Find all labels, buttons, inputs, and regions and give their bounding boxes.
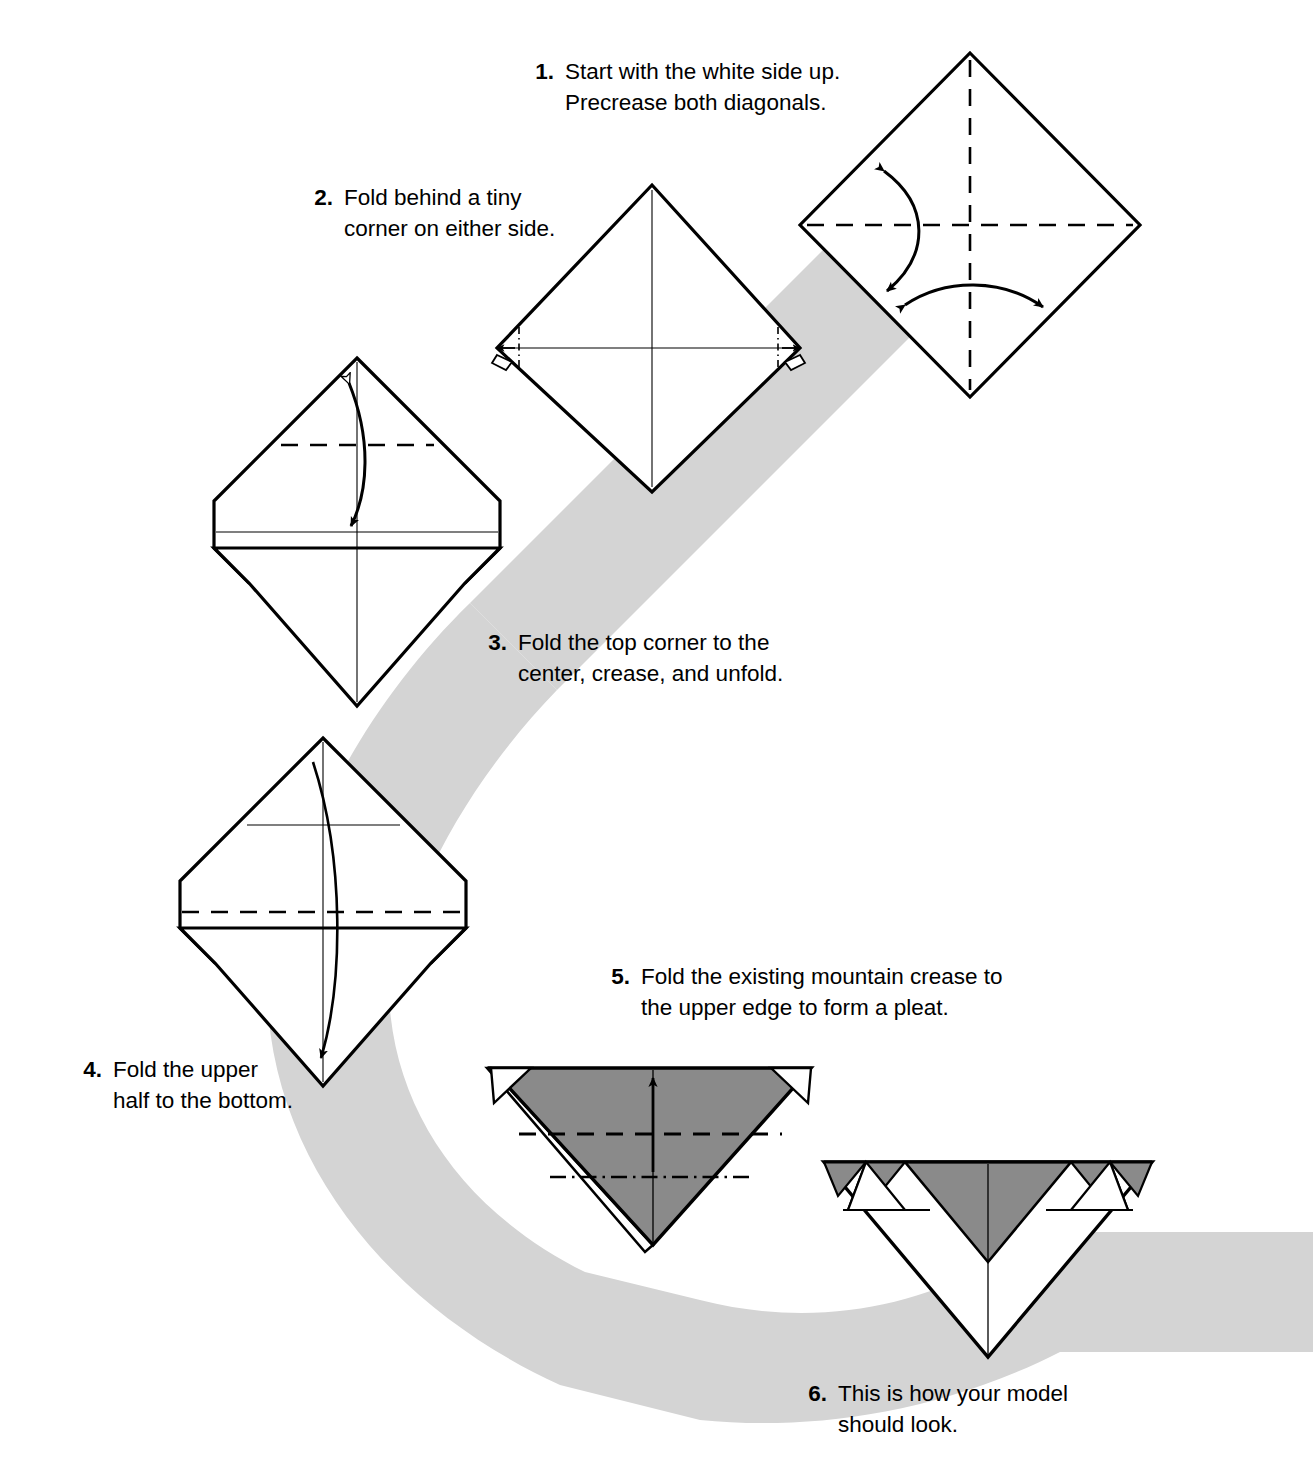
- step-text-6-line1: This is how your model: [838, 1381, 1068, 1406]
- step-text-1-line1: Start with the white side up.: [565, 59, 840, 84]
- origami-diagram-canvas: [0, 0, 1313, 1472]
- figure-step-5: [487, 1068, 811, 1252]
- step-text-3-line2: center, crease, and unfold.: [518, 658, 783, 689]
- origami-diagram-page: 1.Start with the white side up. Precreas…: [0, 0, 1313, 1472]
- step-number-3: 3.: [477, 627, 507, 658]
- flow-ribbon: [268, 200, 1313, 1423]
- step-text-1-line2: Precrease both diagonals.: [565, 87, 840, 118]
- step-text-4-line2: half to the bottom.: [113, 1085, 293, 1116]
- step-caption-2: 2.Fold behind a tiny corner on either si…: [303, 182, 555, 244]
- step-text-4-line1: Fold the upper: [113, 1057, 258, 1082]
- step-caption-5: 5.Fold the existing mountain crease to t…: [600, 961, 1002, 1023]
- step-number-4: 4.: [72, 1054, 102, 1085]
- step-number-6: 6.: [797, 1378, 827, 1409]
- step-caption-6: 6.This is how your model should look.: [797, 1378, 1068, 1440]
- step-number-2: 2.: [303, 182, 333, 213]
- step-caption-1: 1.Start with the white side up. Precreas…: [524, 56, 840, 118]
- step-number-1: 1.: [524, 56, 554, 87]
- step-text-2-line2: corner on either side.: [344, 213, 555, 244]
- step-text-6-line2: should look.: [838, 1409, 1068, 1440]
- step-text-5-line1: Fold the existing mountain crease to: [641, 964, 1002, 989]
- step-text-2-line1: Fold behind a tiny: [344, 185, 522, 210]
- step-text-5-line2: the upper edge to form a pleat.: [641, 992, 1002, 1023]
- step-caption-3: 3.Fold the top corner to the center, cre…: [477, 627, 783, 689]
- step-number-5: 5.: [600, 961, 630, 992]
- step-caption-4: 4.Fold the upper half to the bottom.: [72, 1054, 293, 1116]
- step-text-3-line1: Fold the top corner to the: [518, 630, 769, 655]
